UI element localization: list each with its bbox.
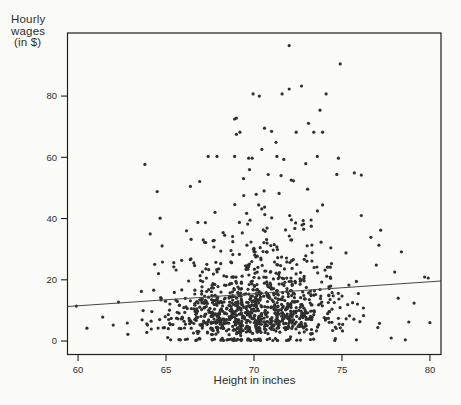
data-point [352,318,355,321]
data-point [320,300,323,303]
data-point [302,219,305,222]
data-point [205,305,208,308]
data-point [357,292,360,295]
data-point [211,333,214,336]
data-point [235,339,238,342]
data-point [266,227,269,230]
data-point [161,260,164,263]
data-point [330,321,333,324]
data-point [313,266,316,269]
data-point [330,308,333,311]
data-point [213,320,216,323]
data-point [206,302,209,305]
data-point [200,290,203,293]
data-point [178,327,181,330]
data-point [299,271,302,274]
data-point [241,231,244,234]
data-point [260,148,263,151]
data-point [330,262,333,265]
data-point [222,231,225,234]
data-point [213,211,216,214]
data-point [221,337,224,340]
x-tick-label: 70 [249,364,260,375]
data-point [303,297,306,300]
data-point [295,263,298,266]
data-point [212,273,215,276]
data-point [304,254,307,257]
data-point [213,303,216,306]
data-point [269,318,272,321]
data-point [263,320,266,323]
data-point [294,221,297,224]
data-point [331,329,334,332]
data-point [302,326,305,329]
data-point [168,302,171,305]
data-point [302,277,305,280]
data-point [268,337,271,340]
data-point [152,289,155,292]
data-point [282,277,285,280]
data-point [300,223,303,226]
data-point [150,320,153,323]
data-point [272,328,275,331]
data-point [280,256,283,259]
data-point [225,338,228,341]
data-point [323,269,326,272]
data-point [231,253,234,256]
data-point [204,267,207,270]
data-point [351,301,354,304]
data-point [261,264,264,267]
data-point [242,177,245,180]
data-point [251,300,254,303]
data-point [281,306,284,309]
data-point [288,87,291,90]
data-point [241,324,244,327]
data-point [222,327,225,330]
data-point [272,277,275,280]
data-point [282,158,285,161]
data-point [205,290,208,293]
data-point [353,171,356,174]
data-point [316,155,319,158]
data-point [360,174,363,177]
data-point [393,271,396,274]
data-point [187,279,190,282]
data-point [309,293,312,296]
data-point [149,232,152,235]
data-point [173,291,176,294]
data-point [295,320,298,323]
data-point [183,326,186,329]
data-point [250,282,253,285]
data-point [369,236,372,239]
data-point [216,297,219,300]
data-point [252,276,255,279]
data-point [200,308,203,311]
data-point [275,305,278,308]
data-point [204,221,207,224]
data-point [329,246,332,249]
data-point [153,263,156,266]
data-point [305,328,308,331]
data-point [255,193,258,196]
data-point [275,312,278,315]
data-point [194,313,197,316]
data-point [265,323,268,326]
data-point [310,244,313,247]
data-point [267,173,270,176]
data-point [246,313,249,316]
data-point [355,280,358,283]
data-point [298,277,301,280]
data-point [311,316,314,319]
data-point [219,326,222,329]
data-point [247,157,250,160]
data-point [293,227,296,230]
data-point [280,174,283,177]
y-axis-title: Hourly wages (in $) [11,14,45,49]
data-point [295,306,298,309]
data-point [287,326,290,329]
data-point [172,265,175,268]
data-point [257,203,260,206]
data-point [235,297,238,300]
data-point [246,223,249,226]
data-point [233,203,236,206]
